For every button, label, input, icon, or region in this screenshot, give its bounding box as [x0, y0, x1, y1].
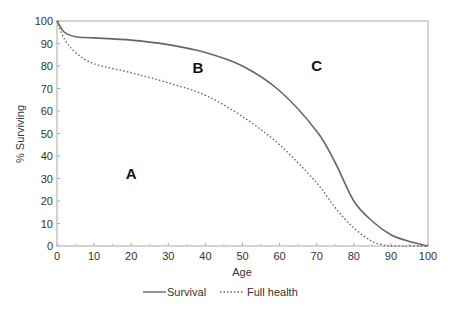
y-tick-label: 50 — [41, 128, 53, 140]
y-tick-label: 10 — [41, 218, 53, 230]
y-tick-label: 100 — [35, 15, 53, 27]
y-tick-label: 0 — [47, 240, 53, 252]
y-tick-label: 20 — [41, 195, 53, 207]
plot-border — [57, 21, 428, 246]
x-tick-label: 90 — [385, 250, 397, 262]
region-label-b: B — [193, 59, 204, 76]
x-tick-label: 10 — [88, 250, 100, 262]
region-label-c: C — [311, 57, 322, 74]
y-tick-label: 90 — [41, 38, 53, 50]
x-tick-label: 0 — [54, 250, 60, 262]
legend-survival-label: Survival — [167, 286, 206, 298]
series-full-health — [57, 21, 428, 246]
plot-frame — [57, 21, 428, 246]
x-tick-label: 30 — [162, 250, 174, 262]
region-labels: ABC — [126, 57, 323, 182]
series-layer — [57, 21, 428, 246]
y-tick-label: 70 — [41, 83, 53, 95]
series-survival — [57, 21, 428, 246]
legend: Survival Full health — [143, 286, 298, 298]
y-axis: 0102030405060708090100 — [35, 15, 60, 252]
x-tick-label: 100 — [419, 250, 437, 262]
legend-full-health-label: Full health — [247, 286, 298, 298]
y-tick-label: 30 — [41, 173, 53, 185]
y-tick-label: 80 — [41, 60, 53, 72]
y-tick-label: 60 — [41, 105, 53, 117]
y-axis-title: % Surviving — [14, 105, 26, 163]
x-tick-label: 50 — [236, 250, 248, 262]
x-axis-title: Age — [232, 266, 252, 278]
y-tick-label: 40 — [41, 150, 53, 162]
region-label-a: A — [126, 165, 137, 182]
x-tick-label: 40 — [199, 250, 211, 262]
x-tick-label: 20 — [125, 250, 137, 262]
x-tick-label: 70 — [311, 250, 323, 262]
x-tick-label: 60 — [273, 250, 285, 262]
survival-chart: 0102030405060708090100 01020304050607080… — [0, 0, 456, 309]
x-tick-label: 80 — [348, 250, 360, 262]
